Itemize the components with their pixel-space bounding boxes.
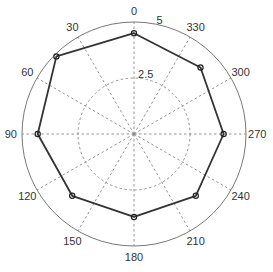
series-layer — [35, 31, 226, 220]
angular-tick-label: 330 — [186, 21, 204, 33]
angular-grid-line — [134, 134, 190, 231]
angular-tick-label: 120 — [18, 190, 36, 202]
polar-chart: 03060901201501802102402703003302.55 — [0, 0, 273, 272]
angular-tick-label: 60 — [21, 66, 33, 78]
series-line — [38, 33, 224, 217]
angular-tick-label: 90 — [5, 128, 17, 140]
angular-tick-label: 210 — [186, 235, 204, 247]
grid — [22, 22, 246, 246]
angular-grid-line — [78, 37, 134, 134]
angular-grid-line — [78, 134, 134, 231]
radial-tick-label: 5 — [156, 14, 162, 26]
angular-grid-line — [134, 78, 231, 134]
angular-grid-line — [134, 37, 190, 134]
angular-tick-label: 300 — [232, 66, 250, 78]
angular-grid-line — [134, 134, 231, 190]
angular-tick-label: 270 — [248, 128, 266, 140]
angular-tick-label: 30 — [66, 21, 78, 33]
angular-tick-label: 180 — [125, 251, 143, 263]
angular-tick-label: 150 — [63, 235, 81, 247]
angular-grid-line — [37, 78, 134, 134]
angular-grid-line — [37, 134, 134, 190]
radial-tick-label: 2.5 — [138, 68, 153, 80]
angular-tick-label: 240 — [232, 190, 250, 202]
angular-tick-label: 0 — [131, 5, 137, 17]
